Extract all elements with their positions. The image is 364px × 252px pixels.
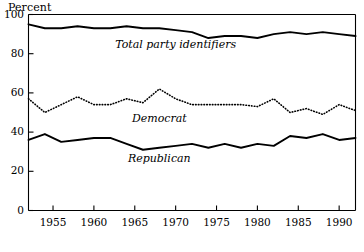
y-tick-label: 20	[0, 164, 24, 176]
series-line	[29, 134, 356, 150]
y-tick-label: 100	[0, 8, 24, 20]
y-tick-label: 40	[0, 125, 24, 137]
x-tick-label: 1980	[237, 216, 277, 228]
x-tick-label: 1985	[278, 216, 318, 228]
series-line	[29, 89, 356, 114]
y-tick-marks	[29, 15, 34, 211]
series-annotation: Republican	[128, 152, 191, 165]
series-annotation: Total party identifiers	[115, 38, 236, 51]
x-tick-label: 1975	[197, 216, 237, 228]
x-tick-marks	[53, 206, 339, 211]
y-tick-label: 0	[0, 204, 24, 216]
series-annotation: Democrat	[132, 112, 187, 125]
x-tick-label: 1965	[115, 216, 155, 228]
series-line	[29, 24, 356, 38]
y-tick-label: 60	[0, 86, 24, 98]
x-tick-label: 1960	[74, 216, 114, 228]
y-tick-label: 80	[0, 47, 24, 59]
x-tick-label: 1990	[319, 216, 359, 228]
chart-figure: Percent 02040608010019551960196519701975…	[0, 0, 364, 252]
x-tick-label: 1955	[33, 216, 73, 228]
x-tick-label: 1970	[156, 216, 196, 228]
